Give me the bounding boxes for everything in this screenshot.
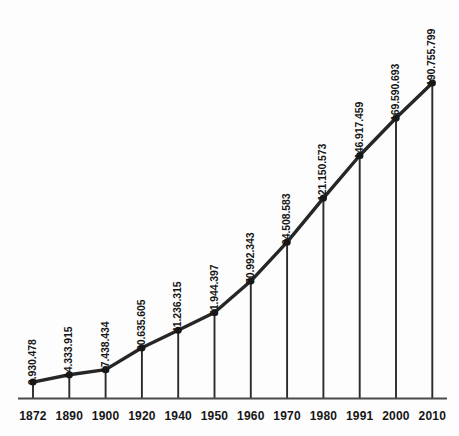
x-tick-label-1900: 1900 [92, 409, 120, 423]
data-point-value-label: 70.992.343 [244, 233, 256, 285]
x-tick-label-1872: 1872 [19, 409, 47, 423]
drop-line-group [33, 83, 432, 399]
data-point-value-label: 169.590.693 [389, 64, 401, 121]
data-point-group [29, 79, 436, 385]
data-point-value-label: 17.438.434 [99, 321, 111, 373]
data-point-value-label: 146.917.459 [353, 101, 365, 158]
x-tick-label-1940: 1940 [164, 409, 192, 423]
x-tick-label-1890: 1890 [56, 409, 84, 423]
data-point-value-label: 121.150.573 [316, 144, 328, 201]
x-tick-label-1970: 1970 [273, 409, 301, 423]
x-tick-label-1950: 1950 [201, 409, 229, 423]
x-tick-label-2000: 2000 [382, 409, 410, 423]
data-point-value-label: 30.635.605 [135, 299, 147, 351]
series-line [33, 83, 432, 382]
population-line-chart: 9.930.47814.333.91517.438.43430.635.6054… [0, 0, 459, 436]
x-tick-label-1960: 1960 [237, 409, 265, 423]
data-point-value-label: 14.333.915 [62, 326, 74, 378]
x-tick-label-1920: 1920 [128, 409, 156, 423]
data-point-value-label: 41.236.315 [171, 282, 183, 334]
data-point-value-label: 9.930.478 [26, 339, 38, 385]
x-tick-label-1980: 1980 [310, 409, 338, 423]
x-tick-label-2010: 2010 [419, 409, 447, 423]
data-point-value-label: 190.755.799 [425, 29, 437, 86]
data-point-value-label: 94.508.583 [280, 194, 292, 246]
data-point-value-label: 51.944.397 [208, 264, 220, 316]
x-tick-label-1991: 1991 [346, 409, 374, 423]
